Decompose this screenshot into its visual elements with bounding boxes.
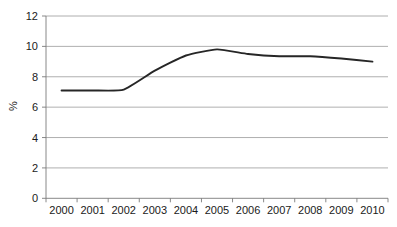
- x-axis-tick-labels: 2000200120022003200420052006200720082009…: [49, 204, 384, 216]
- x-tick-label: 2006: [236, 204, 260, 216]
- chart-canvas: 024681012 200020012002200320042005200620…: [0, 0, 397, 227]
- x-tick-label: 2010: [360, 204, 384, 216]
- y-tick-label: 2: [32, 162, 38, 174]
- x-tick-label: 2004: [174, 204, 198, 216]
- x-tick-label: 2008: [298, 204, 322, 216]
- y-tick-label: 6: [32, 101, 38, 113]
- y-tick-label: 8: [32, 71, 38, 83]
- y-tick-label: 10: [26, 40, 38, 52]
- x-tick-label: 2000: [49, 204, 73, 216]
- x-tick-label: 2001: [80, 204, 104, 216]
- x-tick-label: 2003: [143, 204, 167, 216]
- y-tick-label: 12: [26, 10, 38, 22]
- y-tick-label: 4: [32, 132, 38, 144]
- x-tick-label: 2009: [329, 204, 353, 216]
- y-axis-title: %: [7, 101, 19, 111]
- y-tick-label: 0: [32, 192, 38, 204]
- x-tick-label: 2005: [205, 204, 229, 216]
- chart-background: [0, 0, 397, 227]
- line-chart: 024681012 200020012002200320042005200620…: [0, 0, 397, 227]
- x-tick-label: 2002: [111, 204, 135, 216]
- x-tick-label: 2007: [267, 204, 291, 216]
